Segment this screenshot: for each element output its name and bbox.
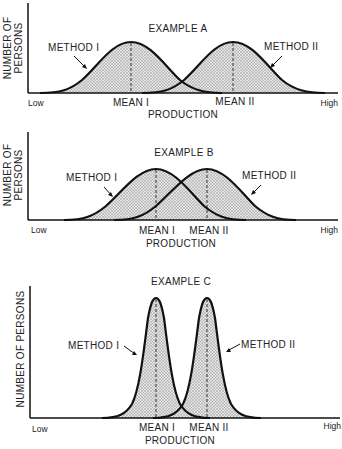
y-axis-label: NUMBER OF PERSONS (15, 291, 26, 408)
x-low-label: Low (32, 424, 48, 434)
method-2-label: METHOD II (241, 339, 295, 350)
x-axis-label: PRODUCTION (145, 435, 215, 446)
chart-title: EXAMPLE B (154, 147, 213, 158)
chart-example-b: EXAMPLE B METHOD I METHOD II NUMBER OF P… (2, 132, 338, 249)
chart-example-a: EXAMPLE A METHOD I METHOD II NUMBER OF P… (2, 3, 338, 120)
chart-title: EXAMPLE A (149, 23, 208, 34)
mean-1-label: MEAN I (139, 225, 175, 236)
x-low-label: Low (28, 98, 44, 108)
method-1-label: METHOD I (68, 340, 119, 351)
mean-2-label: MEAN II (189, 225, 228, 236)
y-axis-label-line2: PERSONS (13, 149, 24, 200)
method-2-label: METHOD II (242, 170, 296, 181)
y-axis-label-line2: PERSONS (13, 22, 24, 73)
x-axis-label: PRODUCTION (148, 109, 218, 120)
y-axis-label-line1: NUMBER OF (2, 144, 13, 207)
mean-2-label: MEAN II (215, 96, 254, 107)
x-high-label: High (321, 225, 339, 235)
x-high-label: High (324, 421, 342, 431)
method-1-arrowhead-icon (132, 351, 137, 355)
method-2-arrow (229, 344, 240, 350)
x-low-label: Low (31, 225, 47, 235)
chart-example-c: EXAMPLE C METHOD I METHOD II NUMBER OF P… (15, 276, 341, 446)
chart-title: EXAMPLE C (151, 276, 211, 287)
figure: EXAMPLE A METHOD I METHOD II NUMBER OF P… (0, 0, 342, 449)
method-1-label: METHOD I (48, 42, 99, 53)
x-axis-label: PRODUCTION (146, 238, 216, 249)
method-2-label: METHOD II (264, 41, 318, 52)
method-1-label: METHOD I (66, 172, 117, 183)
mean-1-label: MEAN I (113, 97, 149, 108)
y-axis-label-line1: NUMBER OF (2, 17, 13, 80)
x-high-label: High (321, 98, 339, 108)
method-2-arrowhead-icon (226, 348, 231, 352)
mean-2-label: MEAN II (189, 422, 228, 433)
mean-1-label: MEAN I (139, 422, 175, 433)
